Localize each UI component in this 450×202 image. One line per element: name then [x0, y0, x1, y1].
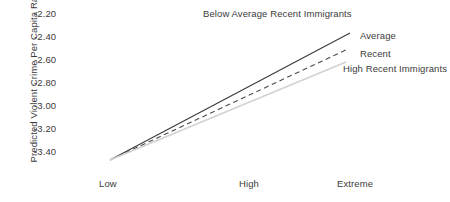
- series-line-recent: [110, 49, 348, 160]
- x-tick-label-high: High: [239, 178, 259, 189]
- x-tick-label-low: Low: [99, 178, 117, 189]
- series-label-high-recent-immigrants: High Recent Immigrants: [343, 63, 447, 74]
- x-tick-label-extreme: Extreme: [337, 178, 373, 189]
- series-label-average: Average: [360, 30, 396, 41]
- series-line-high-recent-immigrants: [110, 62, 346, 160]
- series-label-recent: Recent: [360, 48, 391, 59]
- series-line-average: [110, 33, 350, 160]
- chart-container: Predicted Violent Crime Per Capita Rate …: [0, 0, 450, 202]
